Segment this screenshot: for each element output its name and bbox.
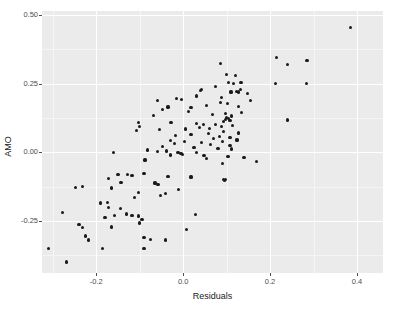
data-point: [211, 113, 214, 116]
data-point: [119, 207, 122, 210]
x-axis-tick-label: 0.0: [178, 278, 188, 286]
data-point: [107, 177, 110, 180]
data-point: [249, 99, 252, 102]
data-point: [214, 85, 217, 88]
data-point: [47, 247, 50, 250]
data-point: [116, 173, 119, 176]
data-point: [200, 141, 203, 144]
data-point: [194, 213, 197, 216]
data-point: [235, 138, 238, 141]
data-point: [113, 214, 116, 217]
data-point: [149, 238, 152, 241]
data-point: [237, 90, 240, 93]
data-point: [198, 126, 201, 129]
data-point: [246, 92, 249, 95]
gridline-minor-horizontal: [42, 49, 383, 50]
data-point: [119, 181, 122, 184]
y-axis-tick-label: 0.00: [23, 149, 38, 157]
gridline-major-vertical: [96, 11, 97, 273]
data-point: [218, 135, 221, 138]
data-point: [87, 238, 90, 241]
data-point: [61, 211, 64, 214]
data-point: [228, 119, 231, 122]
scatter-plot-figure: -0.20.00.20.40.500.250.00-0.25 Residuals…: [0, 0, 393, 309]
data-point: [146, 148, 149, 151]
data-point: [103, 216, 106, 219]
data-point: [220, 96, 223, 99]
data-point: [161, 145, 164, 148]
data-point: [192, 146, 195, 149]
gridline-major-horizontal: [42, 221, 383, 222]
data-point: [240, 111, 243, 114]
data-point: [175, 97, 178, 100]
data-point: [189, 133, 192, 136]
x-axis-tick-mark: [357, 273, 358, 276]
y-axis-tick-mark: [39, 84, 42, 85]
data-point: [164, 192, 167, 195]
data-point: [207, 132, 210, 135]
data-point: [165, 149, 168, 152]
data-point: [84, 234, 87, 237]
data-point: [110, 186, 113, 189]
x-axis-tick-mark: [270, 273, 271, 276]
data-point: [77, 223, 80, 226]
data-point: [234, 74, 237, 77]
data-point: [185, 228, 188, 231]
data-point: [126, 173, 129, 176]
data-point: [212, 137, 215, 140]
data-point: [208, 127, 211, 130]
data-point: [143, 158, 146, 161]
data-point: [81, 185, 84, 188]
data-point: [286, 118, 289, 121]
data-point: [65, 260, 68, 263]
data-point: [169, 121, 172, 124]
plot-panel: [42, 11, 383, 273]
data-point: [195, 151, 198, 154]
data-point: [125, 212, 128, 215]
data-point: [159, 194, 162, 197]
data-point: [237, 131, 240, 134]
data-point: [74, 186, 77, 189]
gridline-major-vertical: [270, 11, 271, 273]
data-point: [237, 105, 240, 108]
data-point: [286, 63, 289, 66]
gridline-major-horizontal: [42, 152, 383, 153]
x-axis-tick-label: 0.2: [265, 278, 275, 286]
gridline-minor-vertical: [53, 11, 54, 273]
data-point: [228, 136, 231, 139]
gridline-minor-vertical: [314, 11, 315, 273]
x-axis-title: Residuals: [42, 292, 383, 301]
data-point: [230, 147, 233, 150]
data-point: [130, 174, 133, 177]
data-point: [305, 82, 308, 85]
data-point: [239, 81, 242, 84]
data-point: [174, 134, 177, 137]
data-point: [216, 147, 219, 150]
x-axis-tick-label: 0.4: [352, 278, 362, 286]
data-point: [133, 196, 136, 199]
data-point: [219, 101, 222, 104]
gridline-minor-horizontal: [42, 118, 383, 119]
gridline-minor-vertical: [140, 11, 141, 273]
data-point: [221, 140, 224, 143]
data-point: [81, 226, 84, 229]
y-axis-tick-label: -0.25: [21, 217, 38, 225]
data-point: [231, 124, 234, 127]
x-axis-tick-mark: [183, 273, 184, 276]
data-point: [152, 114, 155, 117]
gridline-major-horizontal: [42, 84, 383, 85]
x-axis-tick-label: -0.2: [90, 278, 103, 286]
y-axis-tick-mark: [39, 221, 42, 222]
data-point: [138, 125, 141, 128]
data-point: [158, 128, 161, 131]
data-point: [112, 151, 115, 154]
data-point: [142, 247, 145, 250]
data-point: [110, 225, 113, 228]
data-point: [275, 56, 278, 59]
data-point: [161, 108, 164, 111]
y-axis-tick-label: 0.50: [23, 11, 38, 19]
data-point: [255, 160, 258, 163]
data-point: [142, 236, 145, 239]
data-point: [181, 153, 184, 156]
data-point: [222, 130, 225, 133]
